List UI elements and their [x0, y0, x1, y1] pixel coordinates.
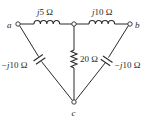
inductor-j5-label: j5 Ω: [36, 7, 53, 17]
capacitor-right-label: −j10 Ω: [114, 60, 141, 70]
inductor-j10: [89, 20, 115, 24]
resistor-20: [71, 50, 77, 68]
node-b-terminal: [128, 22, 132, 26]
wire-b-c2: [109, 26, 129, 58]
inductor-j10-label: j10 Ω: [91, 7, 113, 17]
node-c-terminal: [72, 100, 76, 104]
capacitor-left: [34, 55, 46, 65]
wire-a-c1: [20, 26, 39, 57]
node-c-label: c: [72, 108, 76, 118]
wire-c2-c: [76, 63, 106, 101]
inductor-j5: [34, 20, 60, 24]
node-mid-junction: [72, 22, 76, 26]
wire-c1-c: [42, 62, 73, 101]
resistor-20-label: 20 Ω: [80, 54, 98, 64]
circuit-diagram: a b c j5 Ω j10 Ω 20 Ω −j10 Ω −j10 Ω: [0, 0, 149, 122]
node-b-label: b: [135, 20, 140, 30]
node-a-label: a: [7, 20, 12, 30]
capacitor-right: [101, 56, 113, 66]
capacitor-left-label: −j10 Ω: [1, 60, 28, 70]
node-a-terminal: [16, 22, 20, 26]
